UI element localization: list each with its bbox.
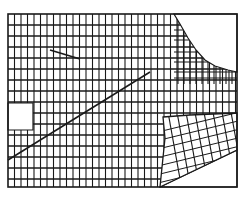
mesh-diagram: [0, 0, 251, 198]
oblique-v-line: [240, 112, 251, 190]
left-notch-void: [8, 103, 33, 130]
